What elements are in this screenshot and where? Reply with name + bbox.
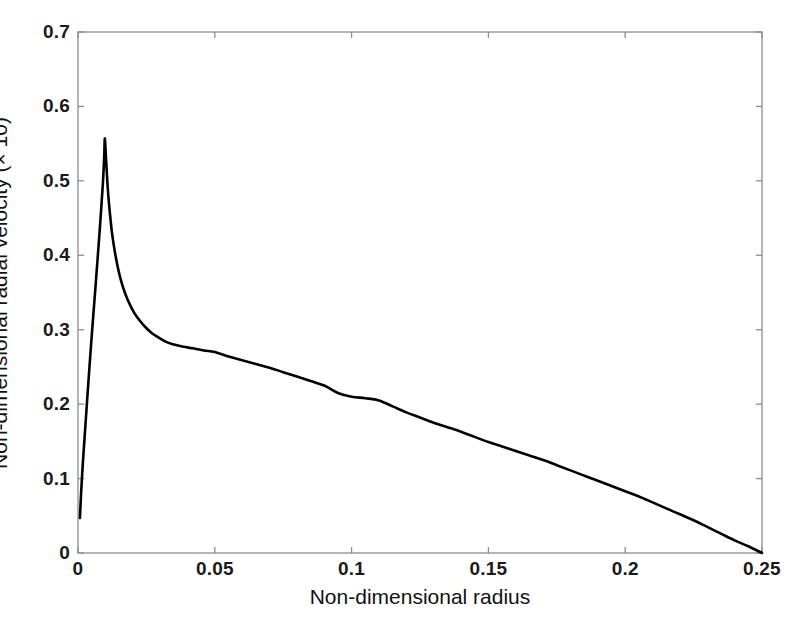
- plot-frame: [78, 32, 762, 553]
- axis-tick-marks: [78, 32, 762, 553]
- x-tick-label: 0.15: [470, 558, 508, 580]
- y-tick-label: 0.4: [43, 244, 70, 266]
- y-tick-label: 0.7: [43, 21, 70, 43]
- y-tick-label: 0.6: [43, 95, 70, 117]
- x-tick-label: 0.25: [743, 558, 781, 580]
- x-tick-label: 0.05: [196, 558, 234, 580]
- y-tick-label: 0.2: [43, 393, 70, 415]
- x-tick-label: 0.1: [338, 558, 365, 580]
- x-axis-title: Non-dimensional radius: [310, 585, 531, 609]
- data-curve: [80, 138, 762, 553]
- y-tick-label: 0: [59, 542, 70, 564]
- y-tick-label: 0.1: [43, 468, 70, 490]
- x-tick-label: 0: [73, 558, 84, 580]
- y-axis-title: Non-dimensional radial velocity (× 10): [0, 33, 12, 553]
- chart-canvas: [0, 0, 795, 619]
- x-tick-label: 0.2: [612, 558, 639, 580]
- y-axis-title-text: Non-dimensional radial velocity (× 10): [0, 117, 12, 469]
- y-tick-label: 0.3: [43, 319, 70, 341]
- y-tick-label: 0.5: [43, 170, 70, 192]
- figure-container: 00.050.10.150.20.25 00.10.20.30.40.50.60…: [0, 0, 795, 619]
